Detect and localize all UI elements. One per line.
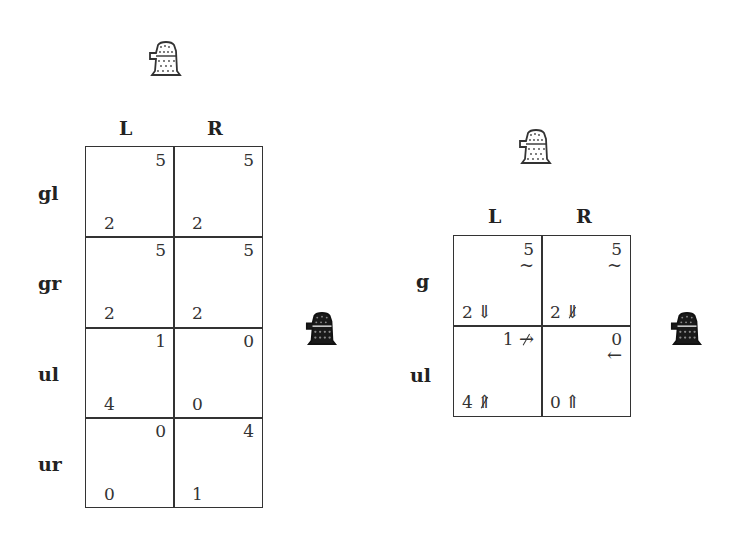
row-payoff-block: 0⇑ (550, 391, 580, 412)
matrix-cell: 0 0 (86, 418, 174, 508)
matrix-cell: 5 2 (174, 147, 262, 237)
indifference-mark: ~ (519, 258, 534, 272)
double-arrow-down-icon: ⇓ (477, 301, 492, 322)
row-payoff-block: 2⇓ (462, 301, 492, 322)
row-payoff-block: 2⇓ (550, 301, 580, 322)
column-payoff: 1 (503, 329, 514, 349)
arrow-left-icon: ← (607, 348, 622, 362)
column-label-l: L (488, 205, 501, 227)
column-payoff: 5 (155, 241, 166, 259)
matrix-cell: 1 → 4⇑ (454, 326, 542, 416)
row-payoff: 0 (192, 394, 203, 414)
row-payoff: 2 (550, 302, 561, 322)
column-payoff: 1 (155, 332, 166, 350)
matrix-cell: 1 4 (86, 328, 174, 418)
row-payoff: 4 (462, 392, 473, 412)
row-payoff: 2 (104, 213, 115, 233)
column-payoff-block: 5 ~ (607, 240, 622, 272)
column-payoff-block: 5 ~ (519, 240, 534, 272)
column-label-l: L (119, 117, 132, 139)
column-payoff: 5 (155, 151, 166, 169)
column-payoff: 0 (155, 422, 166, 440)
row-payoff: 0 (104, 484, 115, 504)
matrix-cell: 0 0 (174, 328, 262, 418)
payoff-matrix-left: 5 2 5 2 5 2 5 2 1 4 0 0 0 0 4 (85, 146, 263, 508)
matrix-cell: 5 2 (86, 147, 174, 237)
row-payoff: 2 (462, 302, 473, 322)
robot-dark-icon (303, 310, 341, 348)
robot-light-icon (146, 40, 186, 78)
indifference-mark: ~ (607, 258, 622, 272)
column-payoff: 5 (243, 151, 254, 169)
row-payoff: 0 (550, 392, 561, 412)
row-label-ul: ul (38, 363, 59, 385)
row-label-ul: ul (410, 364, 431, 386)
double-arrow-down-struck-icon: ⇓ (565, 301, 580, 322)
matrix-cell: 0 ← 0⇑ (542, 326, 630, 416)
row-payoff: 1 (192, 484, 203, 504)
row-payoff: 2 (192, 303, 203, 323)
row-label-ur: ur (38, 453, 62, 475)
row-payoff-block: 4⇑ (462, 391, 492, 412)
column-payoff: 4 (243, 422, 254, 440)
matrix-cell: 5 ~ 2⇓ (542, 236, 630, 326)
row-label-gr: gr (38, 272, 61, 294)
matrix-cell: 5 2 (174, 237, 262, 327)
column-payoff: 5 (243, 241, 254, 259)
column-payoff-block: 1 → (503, 330, 534, 348)
column-payoff: 0 (243, 332, 254, 350)
matrix-cell: 4 1 (174, 418, 262, 508)
row-label-g: g (416, 270, 429, 292)
robot-dark-icon (668, 310, 706, 348)
matrix-cell: 5 2 (86, 237, 174, 327)
column-label-r: R (576, 205, 592, 227)
double-arrow-up-icon: ⇑ (565, 391, 580, 412)
robot-light-icon (516, 128, 556, 166)
row-payoff: 2 (192, 213, 203, 233)
row-payoff: 4 (104, 394, 115, 414)
column-label-r: R (207, 117, 223, 139)
arrow-right-struck-icon: → (519, 332, 534, 346)
matrix-cell: 5 ~ 2⇓ (454, 236, 542, 326)
column-payoff-block: 0 ← (607, 330, 622, 362)
double-arrow-up-struck-icon: ⇑ (477, 391, 492, 412)
row-label-gl: gl (38, 182, 59, 204)
row-payoff: 2 (104, 303, 115, 323)
payoff-matrix-right: 5 ~ 2⇓ 5 ~ 2⇓ 1 → 4⇑ (453, 235, 631, 417)
